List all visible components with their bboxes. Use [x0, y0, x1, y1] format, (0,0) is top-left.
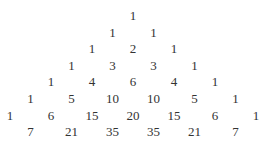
triangle-entry: 1 [48, 75, 55, 88]
triangle-entry: 15 [168, 108, 181, 121]
triangle-entry: 6 [212, 108, 219, 121]
triangle-entry: 1 [171, 42, 178, 55]
triangle-entry: 1 [150, 25, 157, 38]
triangle-entry: 6 [130, 75, 137, 88]
triangle-entry: 5 [68, 92, 75, 105]
triangle-entry: 5 [191, 92, 198, 105]
triangle-entry: 21 [65, 125, 78, 138]
triangle-entry: 3 [109, 58, 116, 71]
triangle-entry: 4 [89, 75, 96, 88]
triangle-entry: 35 [147, 125, 160, 138]
triangle-entry: 20 [127, 108, 140, 121]
triangle-entry: 7 [27, 125, 34, 138]
triangle-entry: 7 [232, 125, 239, 138]
triangle-entry: 1 [232, 92, 239, 105]
triangle-entry: 35 [106, 125, 119, 138]
triangle-entry: 3 [150, 58, 157, 71]
triangle-entry: 1 [191, 58, 198, 71]
triangle-entry: 1 [109, 25, 116, 38]
triangle-entry: 4 [171, 75, 178, 88]
triangle-entry: 1 [89, 42, 96, 55]
triangle-entry: 2 [130, 42, 137, 55]
triangle-entry: 1 [27, 92, 34, 105]
triangle-entry: 15 [86, 108, 99, 121]
triangle-entry: 21 [188, 125, 201, 138]
triangle-entry: 1 [7, 108, 14, 121]
triangle-entry: 1 [130, 9, 137, 22]
triangle-entry: 6 [48, 108, 55, 121]
triangle-entry: 1 [68, 58, 75, 71]
triangle-entry: 1 [253, 108, 260, 121]
triangle-entry: 10 [106, 92, 119, 105]
triangle-entry: 1 [212, 75, 219, 88]
triangle-entry: 10 [147, 92, 160, 105]
